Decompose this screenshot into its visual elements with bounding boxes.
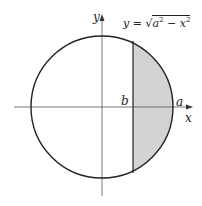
eq-x-exp: 2 [186,16,190,24]
eq-lhs: y [123,17,129,30]
y-axis-label: y [93,11,100,23]
shaded-region [133,30,178,185]
x-axis-arrow-icon [186,105,193,110]
diagram-canvas [0,0,202,206]
radical-icon: √ [145,17,152,30]
radicand: a2 − x2 [152,15,190,29]
a-label: a [176,96,183,108]
b-label: b [121,95,129,107]
eq-minus: − [167,17,176,30]
equation-label: y = √a2 − x2 [123,15,190,29]
x-axis-label: x [185,112,192,124]
y-axis-arrow-icon [100,14,105,21]
eq-a-exp: 2 [159,16,163,24]
eq-equals: = [133,17,142,30]
diagram: y x b a y = √a2 − x2 [0,0,202,206]
